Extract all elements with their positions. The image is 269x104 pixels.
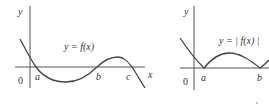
y-axis-label-left: y	[17, 6, 23, 17]
formula-left: y = f(x)	[63, 41, 95, 53]
x-axis-label-left: x	[147, 69, 153, 80]
y-axis-label-right: y	[183, 6, 189, 17]
root-label-c-left: c	[126, 71, 131, 82]
caption-left: a	[73, 100, 77, 104]
root-label-a-right: a	[201, 72, 206, 83]
formula-right: y = | f(x) |	[218, 35, 260, 47]
graph-abs-f: y 0 a b y = | f(x) | b	[180, 6, 269, 104]
root-label-a-left: a	[35, 71, 40, 82]
diagram-canvas: y x 0 a b c y = f(x) a y 0 a b y = | f(x…	[0, 0, 269, 104]
root-label-b-left: b	[96, 71, 101, 82]
origin-label-right: 0	[183, 76, 188, 87]
caption-right: b	[256, 100, 261, 104]
graph-f: y x 0 a b c y = f(x) a	[15, 6, 153, 104]
origin-label-left: 0	[18, 75, 23, 86]
root-label-b-right: b	[257, 72, 262, 83]
